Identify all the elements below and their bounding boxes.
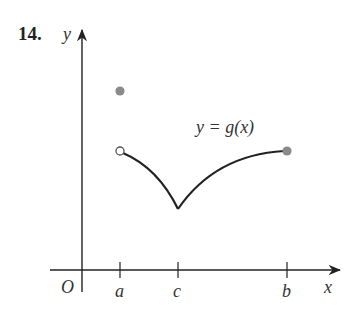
y-axis-label: y (61, 24, 71, 44)
origin-label: O (61, 277, 74, 297)
tick-label-c: c (173, 281, 181, 301)
filled-point-above-a (115, 86, 124, 95)
curve-left-branch (123, 153, 178, 209)
open-point-at-a (116, 147, 124, 155)
problem-number: 14. (18, 23, 42, 44)
graph-figure: 14. y x O a c b y = g(x) (0, 0, 355, 320)
x-axis-label: x (323, 277, 332, 297)
curve-label: y = g(x) (194, 117, 254, 138)
filled-point-at-b (282, 146, 291, 155)
tick-label-b: b (282, 281, 291, 301)
graph-canvas: 14. y x O a c b y = g(x) (0, 0, 355, 320)
curve-right-branch (178, 151, 284, 209)
tick-label-a: a (115, 281, 124, 301)
